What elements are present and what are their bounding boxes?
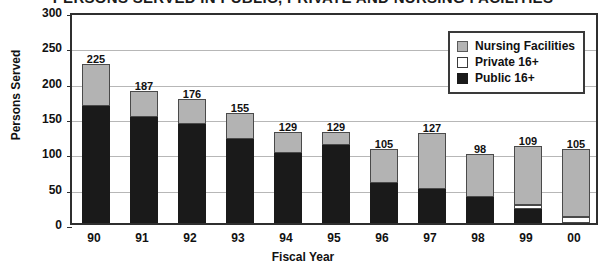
bar-segment-public-92 (178, 124, 206, 223)
bar-group-90[interactable] (82, 11, 110, 223)
bar-stack (130, 91, 158, 223)
bar-segment-nursing-98 (466, 154, 494, 197)
legend-label: Private 16+ (475, 55, 539, 69)
x-axis-title: Fiscal Year (0, 250, 606, 264)
bar-segment-public-91 (130, 117, 158, 223)
bar-stack (274, 132, 302, 223)
bar-segment-public-96 (370, 183, 398, 223)
legend-label: Public 16+ (475, 71, 535, 85)
chart-screenshot: PERSONS SERVED IN PUBLIC, PRIVATE AND NU… (0, 0, 606, 269)
bar-value-label-93: 155 (210, 103, 270, 114)
chart-title: PERSONS SERVED IN PUBLIC, PRIVATE AND NU… (0, 0, 606, 7)
bar-stack (418, 133, 446, 223)
bar-segment-nursing-00 (562, 149, 590, 218)
bar-stack (466, 154, 494, 223)
y-tick-label-0: 0 (28, 219, 62, 231)
bar-segment-public-93 (226, 139, 254, 223)
y-tick-mark-200 (67, 86, 72, 87)
y-axis-tick-labels: 300250200150100500 (22, 0, 62, 269)
bar-segment-nursing-94 (274, 132, 302, 153)
bar-stack (226, 113, 254, 223)
bar-stack (562, 149, 590, 223)
bar-segment-nursing-95 (322, 132, 350, 145)
y-tick-label-250: 250 (28, 42, 62, 54)
y-tick-mark-50 (67, 192, 72, 193)
bar-segment-public-95 (322, 145, 350, 223)
bar-group-95[interactable] (322, 11, 350, 223)
bar-segment-public-90 (82, 106, 110, 223)
bar-group-96[interactable] (370, 11, 398, 223)
bar-segment-nursing-99 (514, 146, 542, 205)
bar-stack (370, 149, 398, 223)
bar-segment-nursing-93 (226, 113, 254, 138)
legend-item-black[interactable]: Public 16+ (457, 70, 575, 86)
bar-segment-nursing-90 (82, 64, 110, 106)
y-tick-mark-100 (67, 156, 72, 157)
y-tick-label-200: 200 (28, 78, 62, 90)
bar-segment-nursing-92 (178, 99, 206, 124)
bar-segment-nursing-91 (130, 91, 158, 117)
bar-segment-public-97 (418, 189, 446, 223)
bar-group-94[interactable] (274, 11, 302, 223)
y-tick-label-100: 100 (28, 148, 62, 160)
bar-segment-private-00 (562, 217, 590, 223)
bar-stack (178, 99, 206, 223)
legend-item-gray[interactable]: Nursing Facilities (457, 38, 575, 54)
y-axis-title: Persons Served (9, 20, 23, 170)
bar-stack (514, 146, 542, 223)
bar-segment-public-94 (274, 153, 302, 223)
legend-swatch-black-icon (457, 73, 468, 84)
legend-label: Nursing Facilities (475, 39, 575, 53)
bar-segment-public-98 (466, 197, 494, 223)
bar-value-label-00: 105 (546, 139, 606, 150)
bar-segment-nursing-96 (370, 149, 398, 183)
y-tick-mark-150 (67, 121, 72, 122)
legend-swatch-gray-icon (457, 41, 468, 52)
bar-segment-public-99 (514, 209, 542, 223)
bar-stack (82, 64, 110, 223)
y-tick-mark-300 (67, 15, 72, 16)
bar-value-label-96: 105 (354, 139, 414, 150)
y-tick-label-300: 300 (28, 7, 62, 19)
y-tick-label-150: 150 (28, 113, 62, 125)
y-tick-mark-250 (67, 50, 72, 51)
legend-swatch-white-icon (457, 57, 468, 68)
bar-group-92[interactable] (178, 11, 206, 223)
legend-item-white[interactable]: Private 16+ (457, 54, 575, 70)
chart-legend: Nursing FacilitiesPrivate 16+Public 16+ (448, 31, 585, 94)
bar-value-label-90: 225 (66, 54, 126, 65)
bar-value-label-95: 129 (306, 122, 366, 133)
bar-stack (322, 132, 350, 223)
bar-value-label-97: 127 (402, 123, 462, 134)
x-tick-label-00: 00 (544, 231, 604, 245)
y-tick-label-50: 50 (28, 184, 62, 196)
bar-group-97[interactable] (418, 11, 446, 223)
bar-group-93[interactable] (226, 11, 254, 223)
y-tick-mark-0 (67, 227, 72, 228)
bar-group-91[interactable] (130, 11, 158, 223)
bar-value-label-92: 176 (162, 89, 222, 100)
bar-segment-nursing-97 (418, 133, 446, 189)
